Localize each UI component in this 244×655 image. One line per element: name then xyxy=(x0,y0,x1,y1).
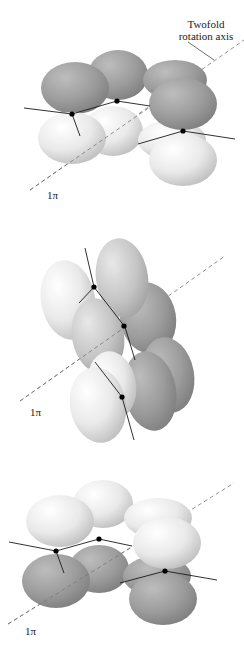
contact-dot xyxy=(162,568,167,573)
axis-label-line2: rotation axis xyxy=(166,30,244,42)
contact-dot xyxy=(119,394,124,399)
subunit-light xyxy=(133,517,201,569)
contact-dot xyxy=(121,323,126,328)
axis-label: Twofold rotation axis xyxy=(166,18,244,42)
panel-top xyxy=(24,40,244,190)
subunit-dark xyxy=(149,78,217,130)
subunit-light xyxy=(149,134,217,186)
subunit-light xyxy=(26,495,94,547)
axis-label-line1: Twofold xyxy=(166,18,244,30)
contact-dot xyxy=(114,98,119,103)
panel-middle xyxy=(20,235,225,448)
axis-label-leader xyxy=(188,42,214,60)
diagram-canvas xyxy=(0,0,244,655)
contact-dot xyxy=(53,548,58,553)
contact-dot xyxy=(96,536,101,541)
subunit-light xyxy=(38,112,106,164)
pi-label-top: 1π xyxy=(47,189,58,201)
contact-dot xyxy=(69,111,74,116)
contact-dot xyxy=(180,128,185,133)
pi-label-middle: 1π xyxy=(30,406,41,418)
subunit-dark xyxy=(22,554,90,608)
pi-label-bottom: 1π xyxy=(25,625,36,637)
panel-bottom xyxy=(8,480,234,625)
contact-dot xyxy=(91,284,96,289)
subunit-dark xyxy=(129,573,197,625)
